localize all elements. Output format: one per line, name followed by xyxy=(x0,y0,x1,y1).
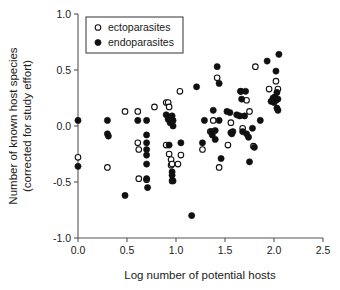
legend-marker-ectoparasites xyxy=(95,25,101,31)
data-point-endoparasites xyxy=(169,172,175,178)
data-point-endoparasites xyxy=(166,142,172,148)
data-point-ectoparasites xyxy=(166,151,172,157)
data-point-endoparasites xyxy=(230,129,236,135)
data-point-endoparasites xyxy=(273,68,279,74)
data-point-endoparasites xyxy=(212,136,218,142)
data-point-endoparasites xyxy=(251,144,257,150)
data-point-endoparasites xyxy=(135,117,141,123)
data-point-ectoparasites xyxy=(200,147,206,153)
data-point-endoparasites xyxy=(75,163,81,169)
data-point-ectoparasites xyxy=(228,120,234,126)
y-axis-ticks: 1.00.50.0-0.5-1.0 xyxy=(53,8,78,244)
x-tick-label: 1.0 xyxy=(169,244,184,256)
data-point-endoparasites xyxy=(75,117,81,123)
data-point-endoparasites xyxy=(257,117,263,123)
data-point-ectoparasites xyxy=(136,176,142,182)
y-tick-label: 0.5 xyxy=(56,64,71,76)
data-point-endoparasites xyxy=(276,51,282,57)
data-point-ectoparasites xyxy=(75,155,81,161)
legend-label-endoparasites: endoparasites xyxy=(108,36,174,48)
data-point-ectoparasites xyxy=(266,86,272,92)
data-point-endoparasites xyxy=(227,109,233,115)
data-point-ectoparasites xyxy=(105,165,111,171)
x-tick-label: 0.5 xyxy=(120,244,135,256)
data-point-ectoparasites xyxy=(247,109,253,115)
data-point-ectoparasites xyxy=(273,78,279,84)
data-point-endoparasites xyxy=(144,146,150,152)
data-point-endoparasites xyxy=(178,140,184,146)
data-point-ectoparasites xyxy=(178,152,184,158)
data-point-ectoparasites xyxy=(175,161,181,167)
data-point-ectoparasites xyxy=(166,104,172,110)
data-point-endoparasites xyxy=(170,178,176,184)
scatter-plot-figure: 1.00.50.0-0.5-1.0 0.00.51.01.52.02.5 Num… xyxy=(0,0,340,290)
data-point-endoparasites xyxy=(275,96,281,102)
data-point-ectoparasites xyxy=(253,64,259,70)
data-point-endoparasites xyxy=(216,80,222,86)
data-point-endoparasites xyxy=(218,155,224,161)
y-tick-label: 0.0 xyxy=(56,120,71,132)
data-point-endoparasites xyxy=(242,88,248,94)
data-point-endoparasites xyxy=(239,96,245,102)
legend: ectoparasites endoparasites xyxy=(86,17,183,53)
data-point-ectoparasites xyxy=(177,88,183,94)
data-point-ectoparasites xyxy=(214,75,220,81)
data-point-ectoparasites xyxy=(216,165,222,171)
data-point-endoparasites xyxy=(264,58,270,64)
y-axis-title: Number of known host species (corrected … xyxy=(7,47,33,204)
data-point-endoparasites xyxy=(216,117,222,123)
data-point-endoparasites xyxy=(104,117,110,123)
data-point-endoparasites xyxy=(144,117,150,123)
legend-marker-endoparasites xyxy=(95,39,101,45)
data-point-ectoparasites xyxy=(169,161,175,167)
data-point-ectoparasites xyxy=(122,109,128,115)
x-axis-ticks: 0.00.51.01.52.02.5 xyxy=(71,238,331,256)
x-tick-label: 2.5 xyxy=(316,244,331,256)
plot-canvas: 1.00.50.0-0.5-1.0 0.00.51.01.52.02.5 Num… xyxy=(0,0,340,290)
legend-label-ectoparasites: ectoparasites xyxy=(108,21,170,33)
y-tick-label: -0.5 xyxy=(53,176,71,188)
data-point-endoparasites xyxy=(246,159,252,165)
x-axis-title: Log number of potential hosts xyxy=(124,269,276,281)
data-point-endoparasites xyxy=(212,127,218,133)
data-point-endoparasites xyxy=(144,132,150,138)
data-point-endoparasites xyxy=(214,64,220,70)
data-point-endoparasites xyxy=(144,176,150,182)
y-tick-label: -1.0 xyxy=(53,232,71,244)
data-point-endoparasites xyxy=(144,185,150,191)
data-point-ectoparasites xyxy=(135,109,141,115)
data-point-endoparasites xyxy=(144,140,150,146)
data-point-endoparasites xyxy=(274,89,280,95)
data-point-endoparasites xyxy=(189,213,195,219)
y-tick-label: 1.0 xyxy=(56,8,71,20)
data-point-endoparasites xyxy=(275,107,281,113)
data-point-endoparasites xyxy=(105,133,111,139)
x-tick-label: 0.0 xyxy=(71,244,86,256)
data-point-ectoparasites xyxy=(225,142,231,148)
data-point-endoparasites xyxy=(122,192,128,198)
series-endoparasites xyxy=(75,51,282,218)
y-axis-title-line2: (corrected for study effort) xyxy=(21,60,33,192)
data-point-ectoparasites xyxy=(136,147,142,153)
x-tick-label: 1.5 xyxy=(218,244,233,256)
data-point-ectoparasites xyxy=(210,118,216,124)
y-axis-title-line1: Number of known host species xyxy=(7,47,19,204)
series-ectoparasites xyxy=(75,64,281,184)
data-point-endoparasites xyxy=(249,125,255,131)
data-point-ectoparasites xyxy=(152,104,158,110)
data-point-endoparasites xyxy=(170,117,176,123)
data-point-endoparasites xyxy=(242,113,248,119)
data-point-ectoparasites xyxy=(135,140,141,146)
data-point-endoparasites xyxy=(199,140,205,146)
data-point-endoparasites xyxy=(144,152,150,158)
data-point-endoparasites xyxy=(144,161,150,167)
data-point-endoparasites xyxy=(201,117,207,123)
data-point-endoparasites xyxy=(245,134,251,140)
data-point-endoparasites xyxy=(193,84,199,90)
data-point-endoparasites xyxy=(170,123,176,129)
data-point-endoparasites xyxy=(210,107,216,113)
x-tick-label: 2.0 xyxy=(267,244,282,256)
